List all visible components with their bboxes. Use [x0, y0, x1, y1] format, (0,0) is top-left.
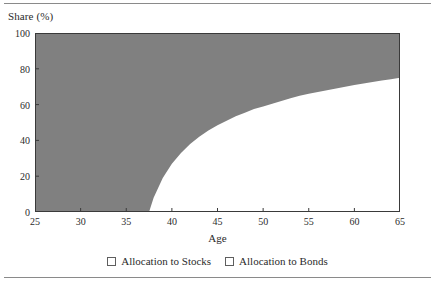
x-tick-label: 30	[76, 216, 86, 227]
y-tick-labels: 100 80 60 40 20 0	[0, 33, 30, 212]
x-tick-label: 45	[213, 216, 223, 227]
chart-figure: Share (%) 100 80 60 40 20 0 25 30 35 40 …	[0, 0, 435, 285]
figure-top-rule	[4, 3, 431, 4]
y-tick-label: 80	[20, 63, 30, 74]
y-tick-label: 40	[20, 135, 30, 146]
legend-item-stocks: Allocation to Stocks	[107, 255, 211, 267]
x-tick-label: 55	[304, 216, 314, 227]
plot-area	[35, 33, 400, 212]
x-axis-label: Age	[35, 232, 400, 244]
x-tick-label: 60	[349, 216, 359, 227]
stocks-swatch-icon	[107, 257, 116, 266]
y-tick-label: 60	[20, 99, 30, 110]
y-tick-label: 20	[20, 171, 30, 182]
legend-item-bonds: Allocation to Bonds	[225, 255, 328, 267]
x-tick-label: 40	[167, 216, 177, 227]
y-axis-label: Share (%)	[8, 10, 53, 22]
x-tick-label: 25	[30, 216, 40, 227]
x-tick-label: 50	[258, 216, 268, 227]
figure-bottom-rule	[4, 277, 431, 278]
x-tick-labels: 25 30 35 40 45 50 55 60 65	[35, 216, 400, 230]
x-tick-label: 65	[395, 216, 405, 227]
x-tick-label: 35	[121, 216, 131, 227]
chart-legend: Allocation to Stocks Allocation to Bonds	[0, 255, 435, 267]
legend-label-bonds: Allocation to Bonds	[239, 255, 328, 267]
area-chart-svg	[35, 33, 400, 212]
legend-label-stocks: Allocation to Stocks	[121, 255, 211, 267]
y-tick-label: 100	[15, 28, 30, 39]
bonds-swatch-icon	[225, 257, 234, 266]
